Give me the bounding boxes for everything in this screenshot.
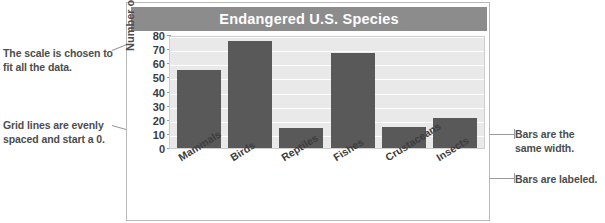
x-axis-category-labels: MammalsBirdsReptilesFishesCrustaceansIns… (169, 151, 485, 211)
x-label-cell: Mammals (172, 151, 224, 211)
annotation-bar-label-note: Bars are labeled. (515, 172, 603, 186)
y-axis-title: Number of species (124, 0, 138, 51)
annotation-grid-note: Grid lines are evenly spaced and start a… (3, 118, 128, 146)
annotation-bar-width-note: Bars are the same width. (515, 127, 603, 155)
y-axis-title-text: Number of species (124, 0, 136, 51)
y-tick-label: 60 (153, 59, 165, 69)
x-label-cell: Crustaceans (379, 151, 431, 211)
y-tick-label: 70 (153, 45, 165, 55)
y-tick-label: 30 (153, 102, 165, 112)
y-tick-label: 20 (153, 116, 165, 126)
bar-fishes (331, 53, 375, 148)
y-tick-label: 0 (159, 144, 165, 154)
bar-birds (228, 41, 272, 148)
bar-cell (224, 37, 275, 148)
x-label-cell: Reptiles (275, 151, 327, 211)
leader-tick-label (514, 173, 515, 183)
chart-card: Endangered U.S. Species Number of specie… (126, 2, 490, 221)
chart-title: Endangered U.S. Species (131, 7, 487, 31)
leader-tick-width (514, 129, 515, 139)
bar-cell (327, 37, 378, 148)
y-tick-label: 50 (153, 73, 165, 83)
leader-line-label (492, 178, 514, 179)
y-axis-tick-labels: 80706050403020100 (141, 36, 165, 148)
bar-cell (276, 37, 327, 148)
y-tick-label: 10 (153, 130, 165, 140)
y-tick-label: 80 (153, 31, 165, 41)
x-label-cell: Fishes (327, 151, 379, 211)
y-tick-label: 40 (153, 88, 165, 98)
leader-line-width (492, 134, 514, 135)
x-label-cell: Birds (224, 151, 276, 211)
x-label-cell: Insects (430, 151, 482, 211)
annotation-scale-note: The scale is chosen to fit all the data. (3, 46, 125, 74)
